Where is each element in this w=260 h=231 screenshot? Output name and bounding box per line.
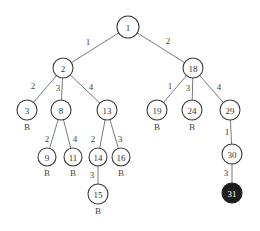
tree-node-2: 2 xyxy=(53,58,73,78)
edge-cost-label: 2 xyxy=(166,36,171,46)
node-label: 24 xyxy=(188,106,198,116)
tree-node-15: 15B xyxy=(88,184,108,216)
edge-cost-label: 4 xyxy=(89,82,94,92)
node-label: 18 xyxy=(189,64,199,74)
node-label: 19 xyxy=(153,106,163,116)
edge-cost-label: 3 xyxy=(224,168,229,178)
edge-cost-label: 1 xyxy=(225,127,230,137)
edge-cost-label: 2 xyxy=(91,134,96,144)
tree-node-19: 19B xyxy=(147,100,167,132)
bound-marker: B xyxy=(95,206,101,216)
node-label: 31 xyxy=(228,189,237,199)
edge-cost-label: 3 xyxy=(118,134,123,144)
bound-marker: B xyxy=(189,122,195,132)
node-label: 9 xyxy=(45,153,50,163)
node-label: 13 xyxy=(103,106,113,116)
goal-node-31: 31 xyxy=(222,183,242,203)
tree-node-13: 13 xyxy=(97,100,117,120)
node-label: 8 xyxy=(59,106,64,116)
edge-cost-label: 4 xyxy=(217,82,222,92)
tree-node-8: 8 xyxy=(51,100,71,120)
bound-marker: B xyxy=(70,168,76,178)
tree-nodes: 12183B81319B24B299B11B1416B3015B31 xyxy=(17,16,242,216)
tree-node-14: 14 xyxy=(89,148,107,166)
tree-node-1: 1 xyxy=(117,16,139,38)
node-label: 15 xyxy=(94,190,104,200)
node-label: 14 xyxy=(94,153,104,163)
bound-marker: B xyxy=(24,122,30,132)
bound-marker: B xyxy=(154,122,160,132)
node-label: 3 xyxy=(25,106,30,116)
node-label: 29 xyxy=(226,106,236,116)
bound-marker: B xyxy=(118,168,124,178)
node-label: 1 xyxy=(126,23,131,33)
node-label: 30 xyxy=(228,150,238,160)
edge-cost-label: 1 xyxy=(168,81,173,91)
node-label: 16 xyxy=(117,153,127,163)
edge-cost-label: 3 xyxy=(90,170,95,180)
bound-marker: B xyxy=(44,168,50,178)
tree-node-24: 24B xyxy=(182,100,202,132)
tree-node-30: 30 xyxy=(222,144,242,164)
tree-node-3: 3B xyxy=(17,100,37,132)
edge-cost-label: 2 xyxy=(45,134,50,144)
tree-node-29: 29 xyxy=(220,100,240,120)
edge-cost-label: 1 xyxy=(86,37,91,47)
tree-node-16: 16B xyxy=(112,148,130,178)
edge-cost-label: 2 xyxy=(31,81,36,91)
search-tree-diagram: 122341342423313 12183B81319B24B299B11B14… xyxy=(0,0,260,231)
tree-node-11: 11B xyxy=(64,148,82,178)
node-label: 11 xyxy=(69,153,78,163)
tree-node-18: 18 xyxy=(183,58,203,78)
node-label: 2 xyxy=(61,64,66,74)
edge-cost-label: 3 xyxy=(56,83,61,93)
edge-cost-label: 4 xyxy=(73,134,78,144)
tree-node-9: 9B xyxy=(38,148,56,178)
edge-cost-label: 3 xyxy=(186,83,191,93)
